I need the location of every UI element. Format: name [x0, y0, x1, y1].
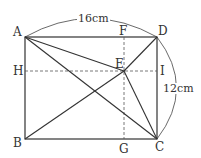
label-A: A	[13, 26, 22, 38]
dimension-right: 12cm	[162, 83, 195, 94]
label-F: F	[119, 25, 127, 37]
segment-AC	[25, 37, 157, 139]
label-I: I	[160, 65, 165, 77]
label-E: E	[115, 58, 124, 70]
segment-EB	[25, 71, 124, 139]
dimension-top: 16cm	[77, 13, 110, 24]
label-B: B	[13, 137, 22, 149]
segment-AE	[25, 37, 124, 71]
segment-DE	[124, 37, 157, 71]
label-G: G	[119, 143, 129, 155]
label-D: D	[158, 25, 168, 37]
label-C: C	[155, 141, 164, 153]
segment-EC	[124, 71, 157, 139]
label-H: H	[13, 65, 23, 77]
